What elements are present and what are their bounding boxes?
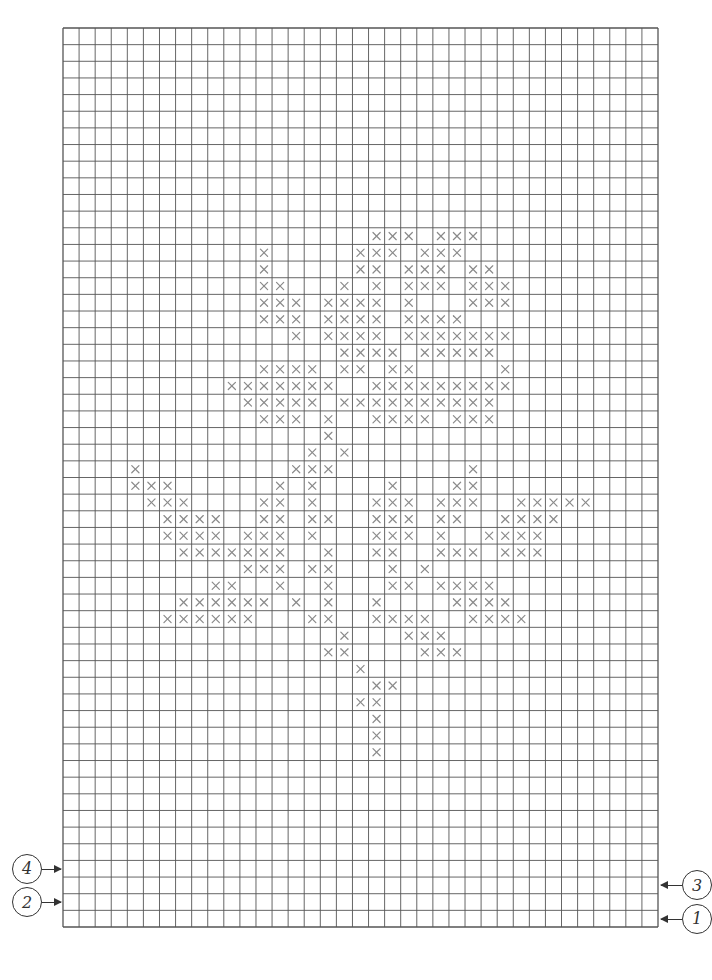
stitch-mark: [357, 366, 364, 373]
stitch-mark: [469, 299, 476, 306]
stitch-mark: [421, 349, 428, 356]
stitch-mark: [453, 416, 460, 423]
stitch-mark: [389, 349, 396, 356]
row-marker-1: 1: [682, 904, 712, 934]
stitch-mark: [453, 649, 460, 656]
stitch-mark: [373, 682, 380, 689]
stitch-mark: [550, 516, 557, 523]
stitch-mark: [276, 482, 283, 489]
stitch-mark: [502, 615, 509, 622]
stitch-mark: [293, 366, 300, 373]
stitch-mark: [405, 499, 412, 506]
stitch-mark: [228, 582, 235, 589]
stitch-mark: [180, 499, 187, 506]
stitch-mark: [453, 549, 460, 556]
stitch-mark: [341, 399, 348, 406]
stitch-mark: [228, 615, 235, 622]
stitch-mark: [373, 399, 380, 406]
stitch-mark: [486, 615, 493, 622]
stitch-mark: [534, 516, 541, 523]
stitch-mark: [164, 615, 171, 622]
stitch-mark: [469, 282, 476, 289]
stitch-mark: [148, 482, 155, 489]
stitch-mark: [293, 316, 300, 323]
stitch-mark: [389, 499, 396, 506]
stitch-mark: [212, 516, 219, 523]
stitch-mark: [502, 532, 509, 539]
stitch-mark: [276, 416, 283, 423]
stitch-mark: [228, 549, 235, 556]
stitch-mark: [405, 299, 412, 306]
stitch-mark: [325, 615, 332, 622]
stitch-mark: [421, 316, 428, 323]
stitch-mark: [373, 516, 380, 523]
stitch-mark: [212, 582, 219, 589]
stitch-mark: [276, 565, 283, 572]
stitch-mark: [437, 499, 444, 506]
stitch-mark: [373, 382, 380, 389]
stitch-mark: [534, 499, 541, 506]
stitch-mark: [260, 565, 267, 572]
stitch-mark: [180, 599, 187, 606]
stitch-mark: [405, 332, 412, 339]
stitch-mark: [502, 516, 509, 523]
stitch-mark: [293, 332, 300, 339]
stitch-mark: [389, 582, 396, 589]
grid-lines: [63, 28, 658, 927]
stitch-mark: [389, 233, 396, 240]
stitch-mark: [260, 282, 267, 289]
arrow-icon: [661, 919, 682, 920]
stitch-mark: [518, 615, 525, 622]
stitch-mark: [453, 482, 460, 489]
stitch-mark: [244, 599, 251, 606]
stitch-mark: [260, 516, 267, 523]
stitch-mark: [309, 449, 316, 456]
stitch-mark: [276, 516, 283, 523]
stitch-mark: [341, 449, 348, 456]
stitch-mark: [421, 399, 428, 406]
stitch-mark: [421, 332, 428, 339]
stitch-mark: [389, 399, 396, 406]
stitch-mark: [325, 332, 332, 339]
stitch-mark: [341, 349, 348, 356]
stitch-mark: [293, 382, 300, 389]
stitch-mark: [276, 282, 283, 289]
stitch-mark: [293, 466, 300, 473]
stitch-mark: [357, 699, 364, 706]
stitch-mark: [373, 732, 380, 739]
stitch-mark: [260, 499, 267, 506]
stitch-mark: [373, 599, 380, 606]
stitch-mark: [486, 599, 493, 606]
stitch-mark: [389, 565, 396, 572]
stitch-mark: [389, 482, 396, 489]
stitch-mark: [244, 615, 251, 622]
stitch-mark: [276, 499, 283, 506]
stitch-mark: [325, 516, 332, 523]
stitch-mark: [486, 582, 493, 589]
stitch-mark: [325, 599, 332, 606]
stitch-mark: [486, 282, 493, 289]
stitch-mark: [453, 349, 460, 356]
arrow-icon: [42, 902, 61, 903]
stitch-mark: [341, 632, 348, 639]
stitch-mark: [196, 615, 203, 622]
stitch-mark: [325, 382, 332, 389]
stitch-mark: [405, 516, 412, 523]
stitch-mark: [228, 382, 235, 389]
stitch-mark: [373, 549, 380, 556]
row-marker-2: 2: [12, 887, 42, 917]
stitch-mark: [502, 299, 509, 306]
stitch-mark: [309, 482, 316, 489]
stitch-mark: [437, 332, 444, 339]
stitch-mark: [405, 632, 412, 639]
stitch-mark: [469, 382, 476, 389]
stitch-mark: [453, 316, 460, 323]
stitch-mark: [309, 615, 316, 622]
stitch-mark: [389, 366, 396, 373]
stitch-mark: [421, 416, 428, 423]
stitch-mark: [389, 416, 396, 423]
stitch-mark: [373, 532, 380, 539]
stitch-mark: [453, 582, 460, 589]
stitch-mark: [260, 366, 267, 373]
stitch-mark: [293, 599, 300, 606]
